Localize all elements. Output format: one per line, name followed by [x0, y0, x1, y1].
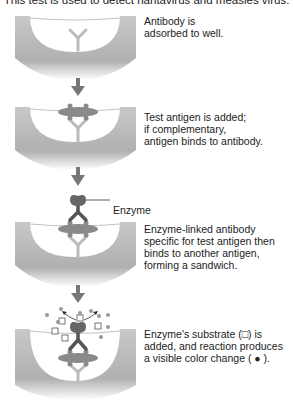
antibody-icon: [69, 236, 87, 257]
well-2: [15, 104, 136, 171]
enzyme-label: Enzyme: [113, 204, 151, 216]
arrow-down-icon: [71, 78, 85, 96]
enzyme-linked-antibody-icon: [70, 195, 110, 220]
step-2-text: Test antigen is added; if complementary,…: [144, 111, 263, 147]
antigen-icon: [58, 350, 98, 367]
enzyme-icon: [70, 322, 86, 333]
enzyme-linked-antibody-icon: [70, 322, 86, 349]
enzyme-icon: [70, 195, 86, 206]
step-1-text: Antibody is adsorbed to well.: [144, 15, 223, 39]
antigen-icon: [58, 104, 98, 121]
arrow-down-icon: [71, 285, 85, 303]
antibody-icon: [70, 30, 86, 50]
well-1: [15, 16, 136, 80]
antigen-icon: [58, 221, 98, 238]
antibody-icon: [69, 364, 87, 382]
step-4-text: Enzyme's substrate (□) is added, and rea…: [144, 328, 283, 364]
antibody-icon: [69, 119, 87, 142]
step-3-text: Enzyme-linked antibody specific for test…: [144, 223, 275, 271]
well-4: [15, 307, 136, 400]
